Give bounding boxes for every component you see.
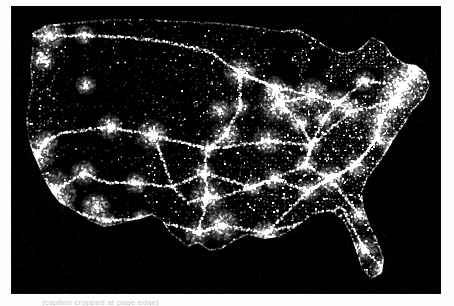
satellite-photograph-plate xyxy=(12,7,440,293)
us-nighttime-lights-canvas xyxy=(12,7,440,293)
photo-page: (caption cropped at page edge) xyxy=(0,0,454,306)
print-edge-right xyxy=(440,7,442,293)
figure-caption: (caption cropped at page edge) xyxy=(42,298,282,306)
